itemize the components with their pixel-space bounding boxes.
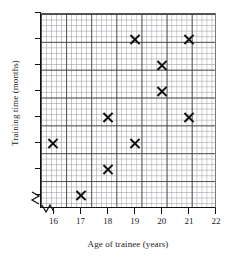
y-tick-mark [35, 38, 41, 39]
x-tick-mark [134, 208, 135, 214]
y-tick-mark [35, 142, 41, 143]
y-tick-mark [35, 64, 41, 65]
data-point [47, 137, 60, 150]
x-axis-title: Age of trainee (years) [38, 239, 218, 249]
x-tick-label: 21 [174, 216, 204, 226]
scatter-chart: 678910111213 16171819202122 Training tim… [0, 0, 229, 259]
data-point [182, 111, 195, 124]
data-point [128, 137, 141, 150]
data-point [128, 33, 141, 46]
x-tick-label: 17 [66, 216, 96, 226]
y-axis-title: Training time (months) [10, 28, 20, 178]
x-axis-break-icon [41, 203, 57, 217]
x-tick-mark [80, 208, 81, 214]
y-tick-mark [35, 90, 41, 91]
data-point [101, 111, 114, 124]
x-tick-label: 18 [93, 216, 123, 226]
x-tick-mark [161, 208, 162, 214]
x-tick-mark [215, 208, 216, 214]
data-point [74, 189, 87, 202]
y-tick-mark [35, 12, 41, 13]
x-tick-mark [107, 208, 108, 214]
x-tick-label: 16 [39, 216, 69, 226]
data-point [155, 59, 168, 72]
x-tick-mark [188, 208, 189, 214]
x-tick-label: 20 [147, 216, 177, 226]
x-tick-label: 22 [201, 216, 229, 226]
y-tick-mark [35, 116, 41, 117]
data-point [155, 85, 168, 98]
data-point [101, 163, 114, 176]
y-tick-mark [35, 168, 41, 169]
data-point [182, 33, 195, 46]
x-tick-label: 19 [120, 216, 150, 226]
